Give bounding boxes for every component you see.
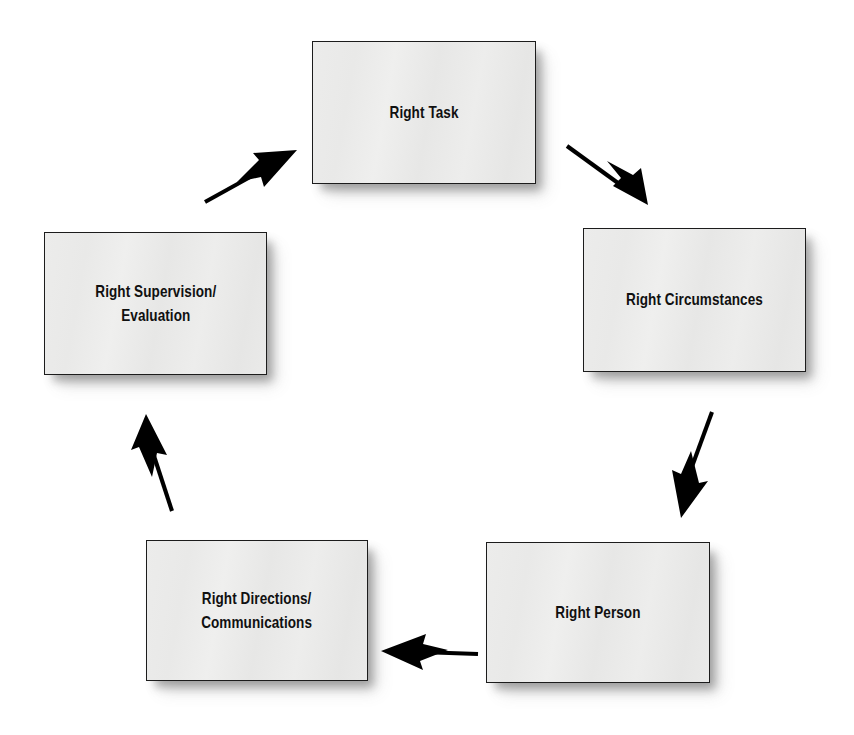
- node-right-directions: Right Directions/ Communications: [146, 540, 368, 681]
- node-right-circumstances: Right Circumstances: [583, 228, 806, 372]
- arrow-circumstances-to-person: [672, 412, 712, 518]
- arrow-task-to-circumstances: [567, 146, 648, 205]
- node-right-circumstances-label: Right Circumstances: [621, 288, 768, 311]
- node-right-supervision-label: Right Supervision/ Evaluation: [90, 280, 221, 327]
- arrow-person-to-directions: [381, 634, 478, 670]
- arrow-supervision-to-task: [205, 150, 297, 202]
- arrow-directions-to-supervision: [131, 414, 172, 511]
- node-right-person-label: Right Person: [550, 601, 645, 624]
- delegation-cycle-diagram: Right Task Right Circumstances Right Per…: [0, 0, 854, 735]
- node-right-task-label: Right Task: [385, 101, 464, 124]
- node-right-directions-label: Right Directions/ Communications: [197, 587, 318, 634]
- node-right-task: Right Task: [312, 41, 536, 184]
- node-right-supervision: Right Supervision/ Evaluation: [44, 232, 267, 375]
- node-right-person: Right Person: [486, 542, 710, 683]
